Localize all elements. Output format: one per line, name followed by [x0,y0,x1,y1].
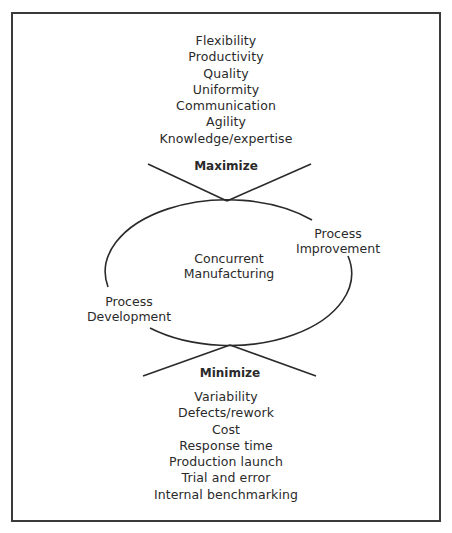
process-development-line2: Development [74,309,184,324]
process-development-line1: Process [74,294,184,309]
maximize-item: Quality [0,66,452,82]
maximize-item: Knowledge/expertise [0,131,452,147]
minimize-item: Trial and error [0,470,452,486]
process-development-label: Process Development [74,294,184,324]
center-label-line2: Manufacturing [169,266,289,281]
minimize-item: Production launch [0,454,452,470]
minimize-list: Variability Defects/rework Cost Response… [0,389,452,503]
maximize-heading: Maximize [176,159,276,174]
minimize-heading: Minimize [180,366,280,381]
process-improvement-line2: Improvement [293,241,383,256]
process-improvement-label: Process Improvement [293,226,383,256]
maximize-item: Flexibility [0,33,452,49]
minimize-item: Internal benchmarking [0,487,452,503]
center-label-line1: Concurrent [169,251,289,266]
maximize-item: Agility [0,114,452,130]
maximize-list: Flexibility Productivity Quality Uniform… [0,33,452,147]
maximize-item: Communication [0,98,452,114]
process-improvement-line1: Process [293,226,383,241]
minimize-item: Cost [0,422,452,438]
maximize-item: Uniformity [0,82,452,98]
maximize-item: Productivity [0,49,452,65]
minimize-item: Variability [0,389,452,405]
concurrent-manufacturing-label: Concurrent Manufacturing [169,251,289,281]
minimize-item: Defects/rework [0,405,452,421]
minimize-item: Response time [0,438,452,454]
